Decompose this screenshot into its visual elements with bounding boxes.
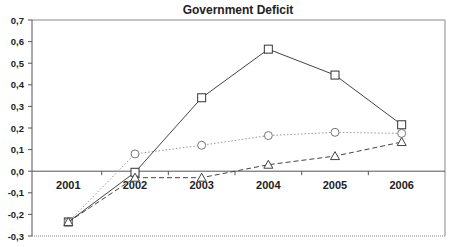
- y-tick-label: 0,0: [11, 166, 24, 177]
- triangle-marker: [397, 138, 406, 146]
- y-tick-label: 0,2: [11, 123, 24, 134]
- series-circle-dotted: [64, 128, 405, 226]
- circle-marker: [398, 129, 406, 137]
- series-line: [68, 132, 401, 222]
- square-marker: [331, 71, 339, 79]
- square-marker: [398, 121, 406, 129]
- y-tick-label: 0,5: [11, 58, 25, 69]
- y-tick-label: 0,1: [11, 144, 25, 155]
- triangle-marker: [197, 173, 206, 181]
- x-tick-label: 2004: [256, 179, 281, 191]
- circle-marker: [331, 128, 339, 136]
- y-tick-label: -0,2: [8, 209, 24, 220]
- y-tick-label: -0,3: [8, 231, 24, 242]
- series-line: [68, 142, 401, 222]
- y-tick-label: -0,1: [8, 187, 25, 198]
- y-tick-label: 0,3: [11, 101, 24, 112]
- circle-marker: [198, 141, 206, 149]
- line-chart: Government Deficit 0,70,60,50,40,30,20,1…: [0, 0, 451, 247]
- axes: 0,70,60,50,40,30,20,10,0-0,1-0,2-0,32001…: [8, 15, 445, 242]
- series-triangle-dashed: [64, 138, 406, 226]
- x-tick-label: 2005: [323, 179, 347, 191]
- x-tick-label: 2001: [56, 179, 80, 191]
- square-marker: [264, 45, 272, 53]
- y-tick-label: 0,4: [11, 79, 25, 90]
- square-marker: [198, 94, 206, 102]
- chart-title: Government Deficit: [183, 3, 294, 17]
- series-group: [64, 45, 406, 226]
- x-tick-label: 2006: [389, 179, 413, 191]
- y-tick-label: 0,6: [11, 36, 24, 47]
- circle-marker: [264, 132, 272, 140]
- circle-marker: [131, 150, 139, 158]
- y-tick-label: 0,7: [11, 15, 24, 26]
- series-line: [68, 49, 401, 222]
- series-square-solid: [64, 45, 405, 226]
- triangle-marker: [331, 152, 340, 160]
